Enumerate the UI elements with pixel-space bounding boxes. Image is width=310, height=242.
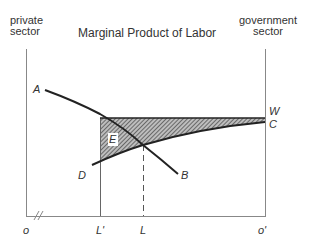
label-l: L bbox=[140, 225, 146, 236]
label-e: E bbox=[109, 134, 116, 145]
left-axis-label-line2: sector bbox=[10, 26, 43, 37]
label-origin: o bbox=[23, 225, 29, 236]
label-origin-prime: o' bbox=[258, 225, 266, 236]
right-axis-label-line2: sector bbox=[234, 26, 302, 37]
label-d: D bbox=[78, 170, 86, 181]
label-a: A bbox=[33, 84, 40, 95]
label-b: B bbox=[181, 170, 188, 181]
label-w: W bbox=[269, 106, 279, 117]
label-l-prime: L' bbox=[96, 225, 104, 236]
label-c: C bbox=[269, 119, 277, 130]
left-axis-label: private sector bbox=[10, 15, 43, 37]
diagram-title: Marginal Product of Labor bbox=[78, 28, 216, 39]
right-axis-label: government sector bbox=[234, 15, 302, 37]
